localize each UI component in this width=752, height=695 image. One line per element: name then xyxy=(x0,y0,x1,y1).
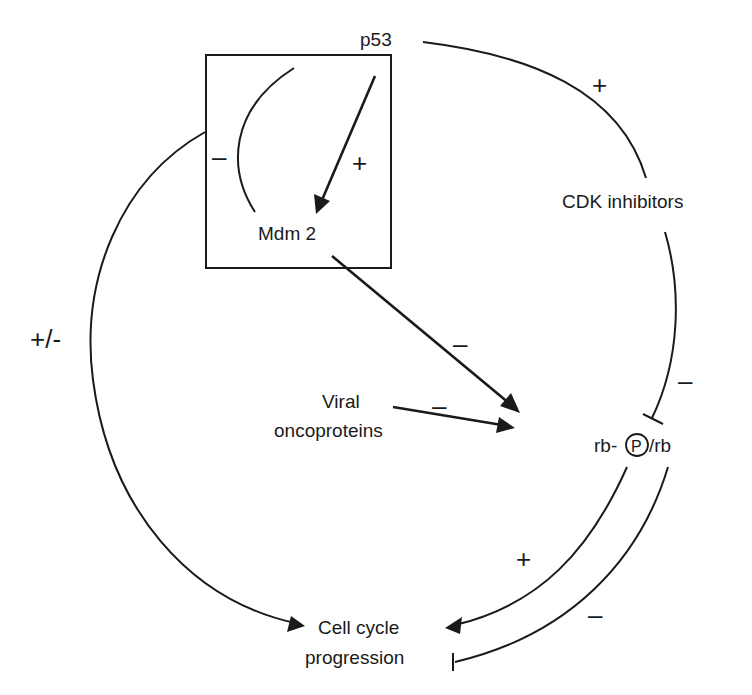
node-cell-cycle-line1: Cell cycle xyxy=(318,617,399,638)
sign-rb-to-cell-plus: + xyxy=(516,544,531,574)
p53-pathway-diagram: p53 Mdm 2 – + + CDK inhibitors – rb- P /… xyxy=(0,0,752,695)
edge-p53-activates-cdk-inhibitors xyxy=(423,42,646,178)
sign-rb-to-cell-minus: – xyxy=(588,600,603,630)
node-cdk-inhibitors: CDK inhibitors xyxy=(562,191,683,212)
svg-text:P: P xyxy=(631,438,642,455)
arrowhead-icon xyxy=(445,617,462,634)
arrowhead-icon xyxy=(287,616,305,632)
edge-mdm2-inhibits-p53 xyxy=(238,68,294,212)
arrowhead-icon xyxy=(496,417,515,433)
edge-p53-activates-mdm2 xyxy=(322,76,375,200)
svg-text:/rb: /rb xyxy=(649,435,671,456)
sign-mdm2-to-p53: – xyxy=(212,142,227,172)
edge-viral-to-rb xyxy=(393,407,502,425)
edge-cdk-inhibits-rb xyxy=(652,232,676,418)
edge-rb-inhibits-cell-cycle xyxy=(455,467,668,662)
svg-text:rb-: rb- xyxy=(594,435,617,456)
edge-mdm2-to-rb xyxy=(332,256,510,404)
node-p53: p53 xyxy=(360,29,392,50)
node-viral-line1: Viral xyxy=(322,391,360,412)
sign-p53-to-cdk: + xyxy=(592,70,607,100)
arrowhead-icon xyxy=(500,393,520,413)
node-cell-cycle-line2: progression xyxy=(305,647,404,668)
sign-cdk-to-rb: – xyxy=(678,366,693,396)
sign-box-to-cell: +/- xyxy=(30,324,61,354)
sign-mdm2-to-rb: – xyxy=(453,329,468,359)
sign-viral-to-rb: – xyxy=(432,391,447,421)
node-rb-phospho-rb: rb- P /rb xyxy=(594,434,671,456)
edge-box-to-cell-cycle xyxy=(91,132,295,623)
node-mdm2: Mdm 2 xyxy=(258,223,316,244)
node-viral-line2: oncoproteins xyxy=(274,420,383,441)
sign-p53-to-mdm2: + xyxy=(352,148,367,178)
